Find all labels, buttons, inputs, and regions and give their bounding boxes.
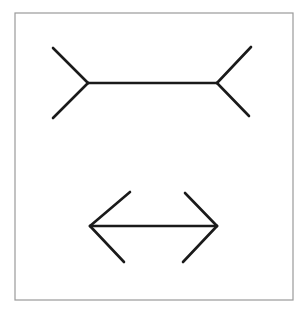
bottom-figure-fins-in [90,192,217,262]
fin-line [53,48,88,83]
figure-frame [15,13,293,300]
fin-line [185,193,217,226]
fin-line [53,83,88,118]
fin-line [217,83,249,116]
fin-line [90,226,124,262]
fin-line [183,226,217,262]
fin-line [90,192,130,226]
top-figure-fins-out [53,47,251,118]
muller-lyer-diagram [0,0,305,313]
fin-line [217,47,251,83]
